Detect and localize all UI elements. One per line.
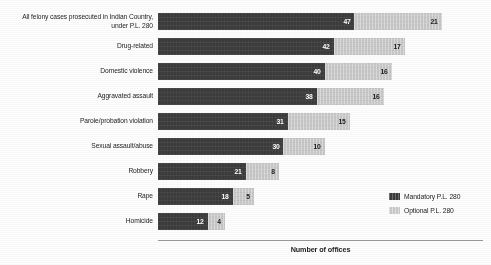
bar-segment: 42: [158, 38, 334, 55]
category-label: Aggravated assault: [15, 84, 153, 109]
legend-item-optional: Optional P.L. 280: [389, 204, 464, 216]
bar-segment: 12: [158, 213, 208, 230]
legend-label-mandatory: Mandatory P.L. 280: [404, 192, 460, 201]
bar-segment: 21: [158, 163, 246, 180]
chart-row: All felony cases prosecuted in Indian Co…: [0, 9, 491, 34]
bar-segment: 17: [334, 38, 405, 55]
stacked-bar: 3010: [158, 138, 325, 155]
bar-segment: 8: [246, 163, 279, 180]
legend-swatch-optional-icon: [389, 207, 400, 214]
bar-value-label: 16: [381, 67, 392, 76]
bar-value-label: 31: [276, 117, 287, 126]
bar-segment: 16: [317, 88, 384, 105]
legend-label-optional: Optional P.L. 280: [404, 206, 454, 215]
bar-segment: 47: [158, 13, 354, 30]
bar-value-label: 10: [314, 142, 325, 151]
stacked-bar: 124: [158, 213, 225, 230]
category-label: Domestic violence: [15, 59, 153, 84]
bar-value-label: 21: [234, 167, 245, 176]
category-label: Robbery: [15, 159, 153, 184]
chart-row: Domestic violence4016: [0, 59, 491, 84]
chart-row: Robbery218: [0, 159, 491, 184]
bar-value-label: 17: [393, 42, 404, 51]
bar-value-label: 30: [272, 142, 283, 151]
bar-value-label: 21: [431, 17, 442, 26]
chart-legend: Mandatory P.L. 280 Optional P.L. 280: [389, 190, 464, 218]
category-label: Sexual assault/abuse: [15, 134, 153, 159]
legend-swatch-mandatory-icon: [389, 193, 400, 200]
legend-item-mandatory: Mandatory P.L. 280: [389, 190, 464, 202]
stacked-bar: 185: [158, 188, 254, 205]
category-label: All felony cases prosecuted in Indian Co…: [15, 9, 153, 34]
bar-segment: 16: [325, 63, 392, 80]
stacked-bar: 218: [158, 163, 279, 180]
bar-segment: 21: [354, 13, 442, 30]
bar-segment: 31: [158, 113, 288, 130]
bar-value-label: 47: [343, 17, 354, 26]
bar-value-label: 42: [322, 42, 333, 51]
bar-segment: 40: [158, 63, 325, 80]
bar-value-label: 8: [272, 167, 279, 176]
bar-segment: 5: [233, 188, 254, 205]
category-label: Rape: [15, 184, 153, 209]
stacked-bar: 3115: [158, 113, 350, 130]
bar-chart: All felony cases prosecuted in Indian Co…: [0, 0, 491, 265]
bar-value-label: 40: [314, 67, 325, 76]
category-label: Parole/probation violation: [15, 109, 153, 134]
bar-segment: 30: [158, 138, 283, 155]
stacked-bar: 4016: [158, 63, 392, 80]
bar-segment: 18: [158, 188, 233, 205]
bar-value-label: 12: [197, 217, 208, 226]
x-axis-title: Number of offices: [166, 245, 475, 254]
bar-value-label: 15: [339, 117, 350, 126]
bar-segment: 38: [158, 88, 317, 105]
bar-value-label: 18: [222, 192, 233, 201]
chart-row: Parole/probation violation3115: [0, 109, 491, 134]
bar-segment: 15: [288, 113, 351, 130]
stacked-bar: 4721: [158, 13, 442, 30]
bar-value-label: 4: [217, 217, 224, 226]
bar-value-label: 5: [247, 192, 254, 201]
chart-row: Sexual assault/abuse3010: [0, 134, 491, 159]
x-axis-line: [158, 240, 483, 241]
bar-value-label: 16: [372, 92, 383, 101]
chart-row: Drug-related4217: [0, 34, 491, 59]
stacked-bar: 4217: [158, 38, 405, 55]
chart-row: Aggravated assault3816: [0, 84, 491, 109]
bar-segment: 4: [208, 213, 225, 230]
stacked-bar: 3816: [158, 88, 384, 105]
category-label: Homicide: [15, 209, 153, 234]
bar-value-label: 38: [305, 92, 316, 101]
bar-segment: 10: [283, 138, 325, 155]
plot-area: All felony cases prosecuted in Indian Co…: [0, 0, 491, 265]
category-label: Drug-related: [15, 34, 153, 59]
